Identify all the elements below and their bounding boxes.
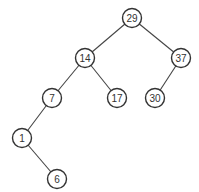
node-label: 6 (54, 174, 60, 185)
node-label: 37 (175, 53, 187, 64)
tree-node-37: 37 (172, 49, 191, 68)
tree-node-7: 7 (43, 89, 62, 108)
node-label: 1 (19, 133, 25, 144)
tree-node-1: 1 (13, 129, 32, 148)
nodes-layer: 2914377173016 (13, 9, 191, 189)
node-label: 7 (49, 93, 55, 104)
tree-node-14: 14 (76, 49, 95, 68)
node-label: 30 (149, 93, 161, 104)
node-label: 17 (111, 93, 123, 104)
tree-svg: 2914377173016 (0, 0, 199, 192)
tree-node-6: 6 (48, 170, 67, 189)
tree-diagram: 2914377173016 (0, 0, 199, 192)
node-label: 29 (126, 13, 138, 24)
tree-node-17: 17 (108, 89, 127, 108)
node-label: 14 (79, 53, 91, 64)
tree-node-30: 30 (146, 89, 165, 108)
tree-node-29: 29 (123, 9, 142, 28)
